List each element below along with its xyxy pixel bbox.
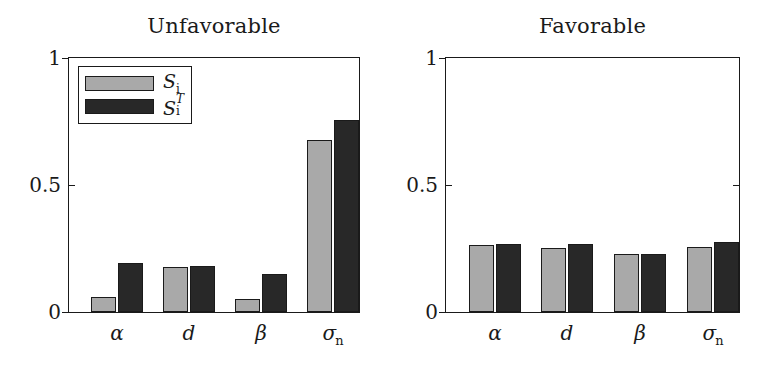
ytick-label-0-favorable: 0	[425, 300, 438, 324]
bar-favorable-beta-sit	[641, 254, 666, 312]
bar-favorable-d-sit	[568, 244, 593, 312]
ytick-inner-05-unfavorable	[69, 185, 75, 186]
panel-favorable: Favorable 0 0.5 1 α d β σn	[381, 0, 771, 381]
xtick-label-unfavorable-beta: β	[255, 321, 267, 345]
legend-entry-sit: STi	[85, 95, 185, 118]
ytick-right-05-favorable	[733, 185, 739, 186]
xtick-label-favorable-d: d	[561, 321, 574, 345]
bar-favorable-sigman-si	[687, 247, 712, 312]
xtick-label-favorable-alpha: α	[488, 321, 502, 345]
ytick-label-1-favorable: 1	[425, 46, 438, 70]
bar-unfavorable-alpha-si	[91, 297, 116, 312]
bar-favorable-alpha-sit	[496, 244, 521, 312]
plot-axes-unfavorable: 0 0.5 1 α d β σn Si	[68, 57, 360, 313]
ytick-1-unfavorable	[62, 58, 69, 59]
bar-favorable-d-si	[541, 248, 566, 312]
bar-unfavorable-d-sit	[190, 266, 215, 312]
xtick-label-unfavorable-d: d	[183, 321, 196, 345]
ytick-label-0-unfavorable: 0	[48, 300, 61, 324]
ytick-0-favorable	[439, 312, 446, 313]
panel-title-favorable: Favorable	[445, 14, 740, 38]
ytick-inner-05-favorable	[446, 185, 452, 186]
panel-unfavorable: Unfavorable 0 0.5 1 α d β	[0, 0, 390, 381]
ytick-label-1-unfavorable: 1	[48, 46, 61, 70]
bar-unfavorable-beta-si	[235, 299, 260, 312]
legend-entry-si: Si	[85, 72, 185, 95]
xtick-label-unfavorable-alpha: α	[110, 321, 124, 345]
bar-favorable-alpha-si	[469, 245, 494, 312]
ytick-label-05-unfavorable: 0.5	[29, 173, 61, 197]
bar-favorable-sigman-sit	[714, 242, 739, 312]
sobol-indices-figure: Unfavorable 0 0.5 1 α d β	[0, 0, 771, 381]
bar-unfavorable-d-si	[163, 267, 188, 312]
xtick-label-unfavorable-sigman: σn	[322, 321, 343, 348]
legend: Si STi	[78, 66, 192, 124]
legend-label-sit: STi	[163, 96, 185, 118]
bar-unfavorable-alpha-sit	[118, 263, 143, 312]
ytick-1-favorable	[439, 58, 446, 59]
bar-unfavorable-sigman-sit	[334, 120, 359, 312]
legend-swatch-si	[85, 76, 154, 91]
xtick-label-favorable-sigman: σn	[702, 321, 723, 348]
ytick-label-05-favorable: 0.5	[406, 173, 438, 197]
xtick-label-favorable-beta: β	[634, 321, 646, 345]
ytick-0-unfavorable	[62, 312, 69, 313]
bar-unfavorable-beta-sit	[262, 274, 287, 312]
legend-swatch-sit	[85, 99, 154, 114]
bar-unfavorable-sigman-si	[307, 140, 332, 312]
panel-title-unfavorable: Unfavorable	[68, 14, 360, 38]
plot-axes-favorable: 0 0.5 1 α d β σn	[445, 57, 740, 313]
bar-favorable-beta-si	[614, 254, 639, 312]
